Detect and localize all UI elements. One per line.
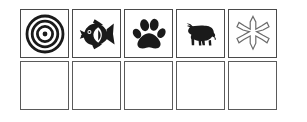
icon-grid [20,9,277,110]
grid-cell-paw[interactable] [124,9,173,58]
grid-cell-target[interactable] [20,9,69,58]
asterisk-star-icon [233,14,273,54]
grid-cell-cow[interactable] [176,9,225,58]
empty-row [20,61,277,110]
grid-cell-fish[interactable] [72,9,121,58]
cow-icon [181,14,221,54]
paw-print-icon [129,14,169,54]
icon-row [20,9,277,58]
grid-cell-asterisk[interactable] [228,9,277,58]
grid-cell-empty-5[interactable] [228,61,277,110]
bullseye-target-icon [25,14,65,54]
grid-cell-empty-2[interactable] [72,61,121,110]
grid-cell-empty-1[interactable] [20,61,69,110]
grid-cell-empty-3[interactable] [124,61,173,110]
grid-cell-empty-4[interactable] [176,61,225,110]
tropical-fish-icon [77,14,117,54]
